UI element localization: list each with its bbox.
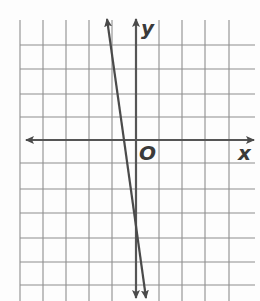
x-axis-label: x <box>238 141 251 165</box>
coordinate-plane <box>0 0 260 301</box>
grid <box>20 20 255 301</box>
origin-label: O <box>139 141 156 165</box>
y-axis-label: y <box>141 16 154 40</box>
graphed-line <box>107 19 124 140</box>
